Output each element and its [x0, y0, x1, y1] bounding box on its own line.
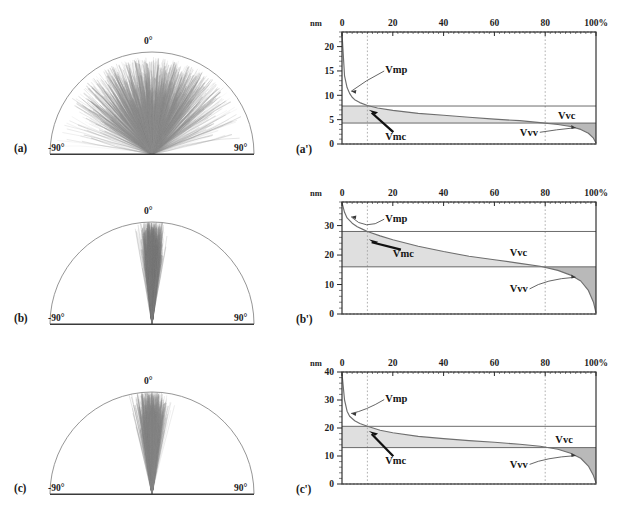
- x-tick-label: 0: [340, 18, 345, 28]
- y-tick-label: 0: [329, 479, 334, 489]
- panel-label-b-prime: (b'): [296, 313, 312, 325]
- annotation-vmc: Vmc: [385, 455, 406, 466]
- figure-root: (a) -90° 0° 90° 020406080100%nm05101520V…: [0, 0, 620, 508]
- annotation-vvv: Vvv: [510, 283, 529, 294]
- x-tick-label: 100%: [584, 358, 608, 368]
- y-tick-label: 15: [325, 66, 335, 76]
- abbott-panel-a-prime: 020406080100%nm05101520VmpVmcVvcVvv (a'): [296, 2, 616, 168]
- y-unit-label: nm: [310, 358, 322, 368]
- polar-label-left-b: -90°: [48, 313, 64, 323]
- abbott-panel-b-prime: 020406080100%nm0102030VmpVmcVvcVvv (b'): [296, 172, 616, 338]
- band-fill-void: [342, 33, 596, 143]
- y-tick-label: 20: [325, 250, 335, 260]
- band-fill-material: [342, 33, 596, 143]
- band-fill-material: [342, 373, 596, 482]
- annotation-vvv: Vvv: [510, 459, 529, 470]
- x-tick-label: 40: [439, 188, 449, 198]
- y-tick-label: 20: [325, 42, 335, 52]
- bearing-area-curve: [342, 373, 596, 482]
- abbott-panel-c-prime: 020406080100%nm010203040VmpVmcVvcVvv (c'…: [296, 342, 616, 508]
- annotation-vmp: Vmp: [385, 213, 407, 224]
- x-tick-label: 80: [540, 358, 550, 368]
- polar-label-left-a: -90°: [48, 143, 64, 153]
- annotation-vvv: Vvv: [520, 127, 539, 138]
- polar-label-center-a: 0°: [144, 36, 153, 46]
- polar-label-right-c: 90°: [234, 483, 247, 493]
- panel-label-c: (c): [14, 482, 26, 494]
- x-tick-label: 60: [490, 358, 500, 368]
- abbott-graphics-a-prime: 020406080100%nm05101520VmpVmcVvcVvv: [310, 18, 608, 149]
- panel-label-b: (b): [14, 312, 27, 324]
- figure-row-a: (a) -90° 0° 90° 020406080100%nm05101520V…: [0, 2, 620, 168]
- abbott-plot-c-prime: 020406080100%nm010203040VmpVmcVvcVvv: [296, 342, 616, 508]
- abbott-plot-b-prime: 020406080100%nm0102030VmpVmcVvcVvv: [296, 172, 616, 338]
- y-tick-label: 10: [325, 280, 335, 290]
- y-tick-label: 40: [325, 367, 335, 377]
- x-tick-label: 60: [490, 188, 500, 198]
- y-tick-label: 30: [325, 221, 335, 231]
- panel-label-a-prime: (a'): [296, 143, 312, 155]
- panel-label-c-prime: (c'): [296, 483, 311, 495]
- annotation-vvc: Vvc: [510, 247, 528, 258]
- y-unit-label: nm: [310, 188, 322, 198]
- x-tick-label: 20: [388, 358, 398, 368]
- polar-panel-b: (b) -90° 0° 90°: [6, 172, 298, 338]
- polar-label-left-c: -90°: [48, 483, 64, 493]
- x-tick-label: 80: [540, 188, 550, 198]
- abbott-graphics-c-prime: 020406080100%nm010203040VmpVmcVvcVvv: [310, 358, 608, 489]
- y-tick-label: 20: [325, 423, 335, 433]
- x-tick-label: 0: [340, 358, 345, 368]
- figure-row-c: (c) -90° 0° 90° 020406080100%nm010203040…: [0, 342, 620, 508]
- annotation-vvc: Vvc: [555, 434, 573, 445]
- x-tick-label: 40: [439, 18, 449, 28]
- polar-label-center-c: 0°: [144, 376, 153, 386]
- x-tick-label: 60: [490, 18, 500, 28]
- x-tick-label: 40: [439, 358, 449, 368]
- angular-distribution-b: [135, 222, 167, 324]
- y-tick-label: 10: [325, 451, 335, 461]
- angular-distribution-c: [129, 392, 174, 494]
- y-tick-label: 5: [329, 115, 334, 125]
- x-tick-label: 80: [540, 18, 550, 28]
- panel-label-a: (a): [14, 142, 27, 154]
- x-tick-label: 20: [388, 188, 398, 198]
- annotation-vmc: Vmc: [385, 131, 406, 142]
- abbott-graphics-b-prime: 020406080100%nm0102030VmpVmcVvcVvv: [310, 188, 608, 319]
- x-tick-label: 20: [388, 18, 398, 28]
- polar-label-right-b: 90°: [234, 313, 247, 323]
- band-fill-void: [342, 373, 596, 482]
- y-tick-label: 0: [329, 139, 334, 149]
- bearing-area-curve: [342, 33, 596, 143]
- polar-panel-c: (c) -90° 0° 90°: [6, 342, 298, 508]
- band-fill-material: [342, 203, 596, 313]
- polar-label-center-b: 0°: [144, 206, 153, 216]
- y-tick-label: 0: [329, 309, 334, 319]
- x-tick-label: 100%: [584, 188, 608, 198]
- annotation-vmp: Vmp: [385, 64, 407, 75]
- annotation-vvc: Vvc: [558, 110, 576, 121]
- annotation-vmc: Vmc: [393, 248, 414, 259]
- annotation-vmp: Vmp: [385, 393, 407, 404]
- figure-row-b: (b) -90° 0° 90° 020406080100%nm0102030Vm…: [0, 172, 620, 338]
- y-tick-label: 30: [325, 395, 335, 405]
- y-tick-label: 10: [325, 91, 335, 101]
- x-tick-label: 0: [340, 188, 345, 198]
- polar-panel-a: (a) -90° 0° 90°: [6, 2, 298, 168]
- y-unit-label: nm: [310, 18, 322, 28]
- abbott-plot-a-prime: 020406080100%nm05101520VmpVmcVvcVvv: [296, 2, 616, 168]
- polar-label-right-a: 90°: [234, 143, 247, 153]
- x-tick-label: 100%: [584, 18, 608, 28]
